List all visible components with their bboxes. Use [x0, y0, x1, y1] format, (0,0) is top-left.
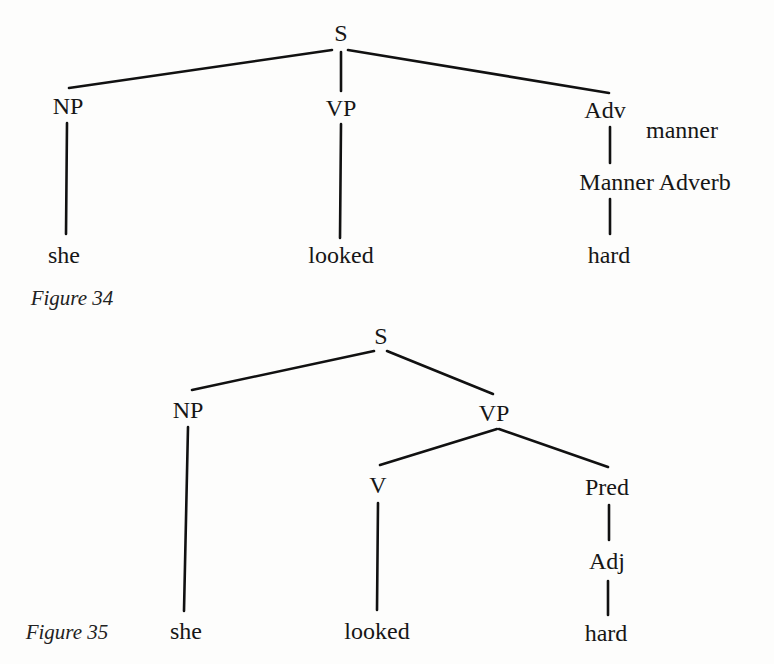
edge-s-vp-35: [387, 351, 493, 394]
edge-v-looked-35: [377, 503, 378, 610]
edge-vp-pred-35: [499, 429, 608, 467]
figure-34-caption: Figure 34: [31, 288, 114, 309]
leaf-hard-34: hard: [588, 243, 631, 267]
node-adv-34: Adv: [584, 98, 625, 122]
edge-np-she-34: [66, 123, 67, 234]
node-vp-34: VP: [326, 96, 357, 120]
node-adv-subscript-34: manner: [646, 118, 718, 142]
node-s-34: S: [334, 21, 347, 45]
node-np-34: NP: [53, 94, 84, 118]
edge-vp-looked-34: [340, 124, 341, 238]
node-manner-adverb-34: Manner Adverb: [579, 170, 730, 194]
node-adj-35: Adj: [589, 549, 625, 573]
edge-s-adv-34: [348, 50, 609, 93]
edge-np-she-35: [184, 427, 188, 611]
node-v-35: V: [369, 473, 386, 497]
edge-vp-v-35: [380, 429, 497, 465]
leaf-she-35: she: [170, 619, 202, 643]
node-pred-35: Pred: [585, 475, 629, 499]
node-vp-35: VP: [479, 401, 510, 425]
leaf-she-34: she: [48, 243, 80, 267]
leaf-looked-34: looked: [308, 243, 373, 267]
edge-s-np-34: [69, 50, 332, 88]
leaf-looked-35: looked: [344, 619, 409, 643]
node-s-35: S: [374, 324, 387, 348]
figure-35-caption: Figure 35: [26, 622, 109, 643]
node-np-35: NP: [173, 398, 204, 422]
diagram-canvas: S NP VP Adv manner Manner Adverb she loo…: [0, 0, 774, 664]
leaf-hard-35: hard: [585, 621, 628, 645]
edge-s-np-35: [192, 351, 374, 390]
